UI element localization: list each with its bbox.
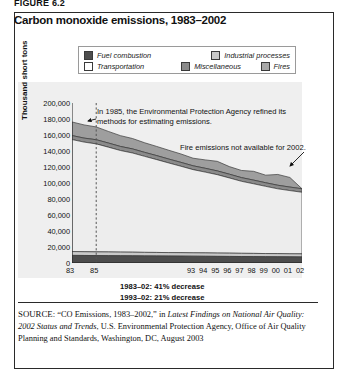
annotation-epa-methods: In 1985, the Environmental Protection Ag… <box>97 107 297 127</box>
legend-swatch-fuel-combustion <box>84 51 93 60</box>
x-tick-label: 99 <box>260 266 268 275</box>
y-tick-label: 60,000 <box>47 211 70 220</box>
x-tick-label: 96 <box>223 266 231 275</box>
legend-item-fuel-combustion: Fuel combustion <box>84 51 151 60</box>
x-tick-label: 00 <box>272 266 280 275</box>
y-tick-label: 200,000 <box>43 99 70 108</box>
y-tick-label: 80,000 <box>47 195 70 204</box>
source-box: SOURCE: “CO Emissions, 1983–2002,” in La… <box>18 302 318 345</box>
y-axis-label: Thousand short tons <box>20 40 29 120</box>
legend-item-transportation: Transportation <box>84 62 144 71</box>
legend-swatch-fires <box>261 62 270 71</box>
legend-row-1: Fuel combustion Industrial processes <box>84 50 290 61</box>
chart-legend: Fuel combustion Industrial processes Tra… <box>78 46 296 74</box>
legend-label-fires: Fires <box>274 62 290 71</box>
x-tick-label: 98 <box>247 266 255 275</box>
x-axis-ticks: 838593949596979899000102 <box>70 266 304 278</box>
source-note: SOURCE: “CO Emissions, 1983–2002,” in La… <box>18 308 318 345</box>
y-tick-label: 120,000 <box>43 163 70 172</box>
legend-label-miscellaneous: Miscellaneous <box>194 62 241 71</box>
x-tick-label: 85 <box>90 266 98 275</box>
x-tick-label: 94 <box>199 266 207 275</box>
y-tick-label: 100,000 <box>43 179 70 188</box>
figure-label: FIGURE 6.2 <box>14 0 65 8</box>
source-label: SOURCE: <box>18 309 55 319</box>
y-tick-label: 20,000 <box>47 243 70 252</box>
chart-title: Carbon monoxide emissions, 1983–2002 <box>14 14 304 26</box>
legend-label-fuel-combustion: Fuel combustion <box>97 51 151 60</box>
x-tick-label: 97 <box>235 266 243 275</box>
x-tick-label: 02 <box>296 266 304 275</box>
statistics-block: 1983–02: 41% decrease 1993–02: 21% decre… <box>120 281 204 303</box>
area-series-fuel-combustion <box>72 255 302 263</box>
annotation-fires-2002: Fire emissions not available for 2002. <box>180 143 315 153</box>
legend-item-fires: Fires <box>261 62 290 71</box>
legend-row-2: Transportation Miscellaneous Fires <box>84 61 290 72</box>
legend-item-miscellaneous: Miscellaneous <box>181 62 241 71</box>
y-tick-label: 180,000 <box>43 115 70 124</box>
y-tick-label: 160,000 <box>43 131 70 140</box>
x-tick-label: 93 <box>187 266 195 275</box>
legend-label-industrial-processes: Industrial processes <box>224 51 290 60</box>
legend-label-transportation: Transportation <box>97 62 144 71</box>
legend-swatch-miscellaneous <box>181 62 190 71</box>
stat-1983-2002: 1983–02: 41% decrease <box>120 281 204 292</box>
legend-swatch-transportation <box>84 62 93 71</box>
source-text-1: “CO Emissions, 1983–2002,” in <box>55 310 167 319</box>
legend-item-industrial-processes: Industrial processes <box>211 51 290 60</box>
y-tick-label: 40,000 <box>47 227 70 236</box>
x-tick-label: 01 <box>284 266 292 275</box>
y-axis-ticks: 200,000180,000160,000140,000120,000100,0… <box>30 103 70 263</box>
y-tick-label: 140,000 <box>43 147 70 156</box>
x-tick-label: 83 <box>66 266 74 275</box>
x-tick-label: 95 <box>211 266 219 275</box>
legend-swatch-industrial-processes <box>211 51 220 60</box>
